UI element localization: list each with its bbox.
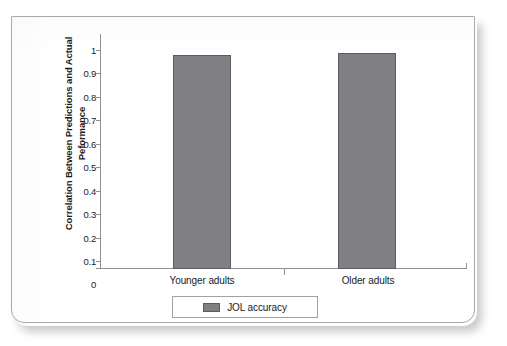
x-category-label-younger-adults: Younger adults	[142, 275, 262, 286]
y-tick-label: 1	[70, 45, 96, 56]
x-axis-category-divider-tick	[284, 269, 285, 275]
bar-younger-adults[interactable]	[173, 55, 231, 269]
y-tick-label: 0.6	[70, 139, 96, 150]
legend-swatch-jol-accuracy	[203, 303, 220, 312]
y-tick-label: 0.1	[70, 256, 96, 267]
chart-frame: Correlation Between Predictions and Actu…	[11, 16, 475, 323]
bar-chart: Correlation Between Predictions and Actu…	[12, 17, 476, 324]
y-tick-label: 0.4	[70, 186, 96, 197]
bar-older-adults[interactable]	[338, 53, 396, 269]
x-category-label-older-adults: Older adults	[312, 275, 424, 286]
y-tick-label: 0.3	[70, 209, 96, 220]
y-tick-label: 0.2	[70, 233, 96, 244]
y-tick-label: 0.5	[70, 162, 96, 173]
y-tick-label: 0.8	[70, 92, 96, 103]
y-tick-label: 0	[70, 279, 96, 290]
y-axis-tick-labels: 1 0.9 0.8 0.7 0.6 0.5 0.4 0.3 0.2 0.1 0	[68, 17, 96, 324]
scanned-page: Correlation Between Predictions and Actu…	[0, 0, 507, 346]
y-axis-line	[100, 34, 101, 269]
y-tick-label: 0.9	[70, 68, 96, 79]
legend-label-jol-accuracy: JOL accuracy	[227, 302, 287, 313]
chart-legend: JOL accuracy	[172, 296, 318, 318]
x-axis-end-tick	[466, 263, 467, 269]
y-tick-label: 0.7	[70, 115, 96, 126]
